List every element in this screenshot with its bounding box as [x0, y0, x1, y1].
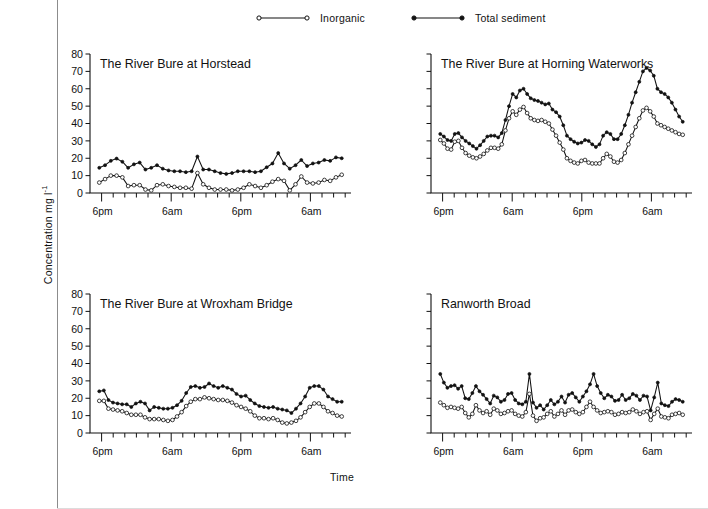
data-point-marker: [148, 417, 152, 421]
data-point-marker: [224, 188, 228, 192]
data-point-marker: [659, 123, 663, 127]
data-point-marker: [542, 408, 545, 411]
data-point-marker: [226, 399, 230, 403]
data-point-marker: [254, 171, 257, 174]
data-point-marker: [299, 175, 303, 179]
y-axis-label-text: Concentration mg l: [42, 192, 54, 284]
data-point-marker: [547, 102, 550, 105]
data-point-marker: [258, 416, 262, 420]
data-point-marker: [317, 385, 320, 388]
data-point-marker: [574, 396, 577, 399]
data-point-marker: [569, 138, 572, 141]
data-point-marker: [592, 372, 595, 375]
data-point-marker: [653, 396, 656, 399]
y-axis-tick-label: 0: [77, 427, 83, 439]
data-point-marker: [616, 138, 619, 141]
data-point-marker: [242, 170, 245, 173]
data-point-marker: [265, 183, 269, 187]
y-axis-tick-label: 20: [71, 392, 83, 404]
series-line: [99, 153, 341, 174]
data-point-marker: [194, 385, 197, 388]
data-point-marker: [660, 402, 663, 405]
data-point-marker: [479, 144, 482, 147]
data-point-marker: [535, 419, 539, 423]
data-point-marker: [606, 393, 609, 396]
data-point-marker: [584, 139, 587, 142]
panel-title: The River Bure at Horstead: [100, 57, 251, 71]
panel-title: The River Bure at Horning Waterworks: [441, 57, 653, 71]
data-point-marker: [112, 401, 115, 404]
data-point-marker: [506, 409, 510, 413]
data-point-marker: [308, 386, 311, 389]
series-inorganic: [97, 396, 343, 426]
y-axis-tick-label: 30: [71, 375, 83, 387]
data-point-marker: [313, 385, 316, 388]
data-point-marker: [588, 400, 592, 404]
data-point-marker: [248, 182, 252, 186]
data-point-marker: [510, 392, 513, 395]
data-point-marker: [236, 188, 240, 192]
data-point-marker: [641, 70, 644, 73]
data-point-marker: [585, 405, 589, 409]
data-point-marker: [517, 402, 520, 405]
data-point-marker: [571, 392, 574, 395]
data-point-marker: [157, 406, 160, 409]
data-point-marker: [565, 134, 568, 137]
data-point-marker: [98, 166, 101, 169]
legend-label-total-sediment: Total sediment: [475, 12, 546, 24]
data-point-marker: [549, 409, 553, 413]
data-point-marker: [560, 409, 564, 413]
data-point-marker: [567, 393, 570, 396]
data-point-marker: [674, 130, 678, 134]
data-point-marker: [642, 410, 646, 414]
data-point-marker: [446, 139, 449, 142]
chart-svg: 6pm6am6pm6amThe River Bure at Horning Wa…: [398, 46, 698, 231]
y-axis-tick-label: 50: [71, 100, 83, 112]
data-point-marker: [438, 138, 442, 142]
y-axis-tick-label: 60: [71, 83, 83, 95]
data-point-marker: [253, 414, 257, 418]
data-point-marker: [221, 385, 224, 388]
data-point-marker: [616, 161, 620, 165]
data-point-marker: [620, 410, 624, 414]
data-point-marker: [603, 397, 606, 400]
y-axis-tick-label: 10: [71, 169, 83, 181]
series-total-sediment: [98, 382, 343, 415]
data-point-marker: [565, 156, 569, 160]
data-point-marker: [485, 398, 488, 401]
data-point-marker: [581, 395, 584, 398]
data-point-marker: [620, 132, 623, 135]
data-point-marker: [594, 162, 598, 166]
data-point-marker: [453, 132, 456, 135]
data-point-marker: [103, 177, 107, 181]
data-point-marker: [605, 152, 609, 156]
data-point-marker: [635, 394, 638, 397]
data-point-marker: [652, 74, 655, 77]
data-point-marker: [637, 116, 641, 120]
data-point-marker: [109, 174, 113, 178]
x-axis-tick-label: 6pm: [232, 206, 252, 217]
data-point-marker: [249, 398, 252, 401]
y-axis-tick-label: 80: [71, 48, 83, 60]
series-inorganic: [438, 105, 684, 165]
data-point-marker: [663, 404, 666, 407]
data-point-marker: [334, 156, 337, 159]
data-point-marker: [453, 384, 456, 387]
data-point-marker: [189, 400, 193, 404]
data-point-marker: [515, 96, 518, 99]
data-point-marker: [520, 415, 524, 419]
data-point-marker: [619, 158, 623, 162]
chart-panel-wroxham-bridge: 010203040506070806pm6am6pm6amThe River B…: [57, 286, 357, 471]
data-point-marker: [464, 139, 467, 142]
data-point-marker: [560, 395, 563, 398]
data-point-marker: [577, 412, 581, 416]
data-point-marker: [514, 398, 517, 401]
data-point-marker: [306, 165, 309, 168]
data-point-marker: [132, 183, 136, 187]
data-point-marker: [581, 410, 585, 414]
data-point-marker: [323, 178, 327, 182]
data-point-marker: [179, 170, 182, 173]
data-point-marker: [627, 113, 630, 116]
data-point-marker: [667, 416, 671, 420]
data-point-marker: [551, 108, 554, 111]
